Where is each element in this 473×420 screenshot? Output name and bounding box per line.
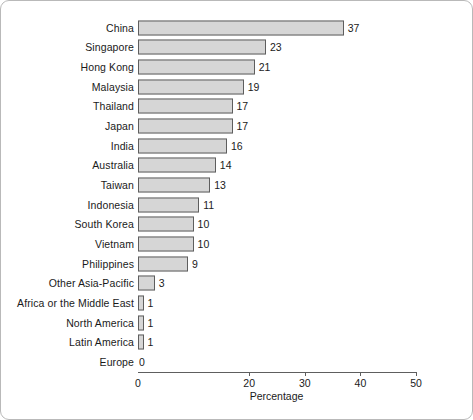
bar-row: Vietnam10 [1,234,473,254]
x-axis-tick [360,372,361,376]
bar-row: Indonesia11 [1,195,473,215]
bar[interactable] [138,178,210,193]
x-axis-tick-label: 0 [135,377,141,389]
y-axis-line [138,18,139,373]
bar[interactable] [138,79,244,94]
bar-row: Africa or the Middle East1 [1,293,473,313]
x-axis-title: Percentage [1,390,473,402]
category-label: Africa or the Middle East [17,297,134,309]
bar-value-label: 10 [198,238,210,250]
bar-value-label: 1 [148,317,154,329]
bar-value-label: 37 [348,22,360,34]
bar[interactable] [138,256,188,271]
category-label: Vietnam [95,238,134,250]
category-label: Indonesia [88,199,134,211]
category-label: Australia [92,159,134,171]
category-label: Latin America [69,336,134,348]
bar-value-label: 21 [259,61,271,73]
bar-value-label: 13 [214,179,226,191]
bar[interactable] [138,158,216,173]
bar-row: Hong Kong21 [1,57,473,77]
bar-row: Singapore23 [1,38,473,58]
bar-row: Thailand17 [1,97,473,117]
bar[interactable] [138,217,194,232]
x-axis-tick [416,372,417,376]
bar[interactable] [138,60,255,75]
category-label: China [106,22,134,34]
category-label: Philippines [82,258,134,270]
bar-value-label: 23 [270,41,282,53]
bar-row: Europe0 [1,352,473,372]
x-axis-tick-label: 30 [299,377,311,389]
bar-row: Latin America1 [1,333,473,353]
x-axis-tick-label: 50 [410,377,422,389]
bar-value-label: 1 [148,336,154,348]
bar[interactable] [138,197,199,212]
bar-value-label: 10 [198,218,210,230]
category-label: Malaysia [92,81,134,93]
x-axis-line [138,372,417,373]
category-label: Japan [105,120,134,132]
bar-row: South Korea10 [1,215,473,235]
bar-value-label: 0 [139,356,145,368]
bar[interactable] [138,138,227,153]
x-axis-tick [305,372,306,376]
x-axis-tick-label: 40 [355,377,367,389]
bar[interactable] [138,40,266,55]
category-label: North America [66,317,134,329]
bar-row: Taiwan13 [1,175,473,195]
bar-row: Malaysia19 [1,77,473,97]
category-label: Other Asia-Pacific [49,277,134,289]
bar[interactable] [138,20,344,35]
bar-row: Australia14 [1,156,473,176]
bar-row: Japan17 [1,116,473,136]
bar[interactable] [138,276,155,291]
chart-figure: China37Singapore23Hong Kong21Malaysia19T… [0,0,473,420]
bar-value-label: 1 [148,297,154,309]
bar-value-label: 9 [192,258,198,270]
bar-value-label: 17 [237,100,249,112]
bar-value-label: 16 [231,140,243,152]
bar-row: Philippines9 [1,254,473,274]
x-axis-tick-label: 20 [243,377,255,389]
bar-chart-plot-area: China37Singapore23Hong Kong21Malaysia19T… [1,1,473,420]
bar[interactable] [138,99,233,114]
category-label: Thailand [93,100,134,112]
category-label: South Korea [75,218,134,230]
bar-row: North America1 [1,313,473,333]
bar-value-label: 3 [159,277,165,289]
bar-value-label: 14 [220,159,232,171]
x-axis-tick [249,372,250,376]
bar-row: India16 [1,136,473,156]
category-label: Taiwan [101,179,134,191]
bar-value-label: 19 [248,81,260,93]
bar-value-label: 11 [203,199,214,211]
bar-row: China37 [1,18,473,38]
category-label: Hong Kong [81,61,134,73]
category-label: Singapore [85,41,134,53]
category-label: India [111,140,134,152]
bar[interactable] [138,237,194,252]
bar-value-label: 17 [237,120,249,132]
bar-row: Other Asia-Pacific3 [1,274,473,294]
category-label: Europe [100,356,134,368]
bar[interactable] [138,119,233,134]
x-axis-title-text: Percentage [250,390,304,402]
